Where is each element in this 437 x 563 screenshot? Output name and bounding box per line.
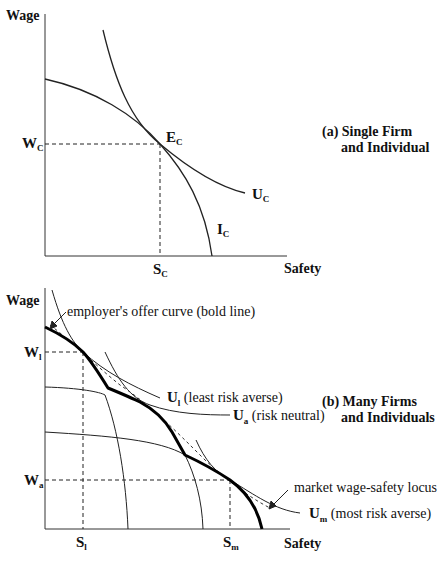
panel-b-title: (b) Many Firms and Individuals bbox=[322, 394, 435, 426]
safety-m-label: Sm bbox=[223, 535, 239, 552]
panel-a-y-axis-label: Wage bbox=[6, 9, 39, 23]
utility-ua-label: Ua (risk neutral) bbox=[233, 408, 325, 426]
offer-curve-note: employer's offer curve (bold line) bbox=[67, 305, 255, 319]
safety-c-label: SC bbox=[153, 262, 168, 279]
employer-offer-curve bbox=[45, 327, 262, 529]
utility-uc-label: UC bbox=[252, 187, 269, 204]
isoprofit-ic-label: IC bbox=[217, 222, 229, 239]
wage-c-label: WC bbox=[22, 136, 44, 153]
indifference-curve-um bbox=[196, 440, 300, 513]
isoprofit-curve-1 bbox=[45, 387, 128, 529]
safety-l-label: Sl bbox=[76, 535, 87, 552]
utility-um-label: Um (most risk averse) bbox=[309, 506, 431, 524]
panel-b-y-axis-label: Wage bbox=[6, 294, 39, 308]
panel-a-title: (a) Single Firm and Individual bbox=[322, 124, 429, 156]
wage-a-label: Wa bbox=[24, 473, 44, 490]
offer-curve-arrow bbox=[50, 312, 66, 329]
equilibrium-ec-label: EC bbox=[166, 130, 183, 147]
panel-a-x-axis-label: Safety bbox=[284, 262, 321, 276]
panel-b-x-axis-label: Safety bbox=[284, 537, 321, 551]
market-locus-note: market wage-safety locus bbox=[294, 481, 437, 495]
panel-a-guides bbox=[45, 144, 160, 256]
indifference-curve-uc bbox=[103, 30, 245, 193]
market-locus-arrow bbox=[269, 490, 288, 509]
utility-ul-label: Ul (least risk averse) bbox=[167, 390, 283, 408]
wage-l-label: Wl bbox=[24, 345, 42, 362]
